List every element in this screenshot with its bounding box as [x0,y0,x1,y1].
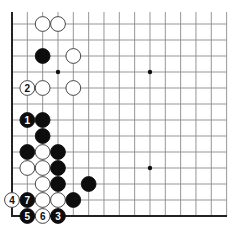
white-stone: 6 [35,209,50,224]
white-stone [35,145,50,160]
stone-disc [35,81,50,96]
black-stone: 3 [51,209,66,224]
move-number: 5 [25,211,31,222]
move-number: 6 [40,211,46,222]
stone-disc [51,193,66,208]
stone-disc [35,145,50,160]
star-point [148,166,152,170]
black-stone [66,193,81,208]
black-stone [20,145,35,160]
black-stone: 1 [20,113,35,128]
white-stone [20,161,35,176]
stone-disc [51,177,66,192]
stone-disc [35,129,50,144]
stone-disc [35,49,50,64]
black-stone [51,177,66,192]
star-point [148,70,152,74]
stone-disc [35,113,50,128]
star-point [56,70,60,74]
stone-disc [66,81,81,96]
stone-disc [51,145,66,160]
black-stone [35,49,50,64]
stone-disc [51,161,66,176]
white-stone [35,177,50,192]
stone-disc [35,193,50,208]
stone-disc [35,17,50,32]
white-stone [35,17,50,32]
stone-disc [35,177,50,192]
move-number: 1 [25,115,31,126]
white-stone [51,193,66,208]
move-number: 3 [55,211,61,222]
black-stone: 5 [20,209,35,224]
move-number: 7 [25,195,31,206]
white-stone [35,161,50,176]
stone-disc [20,161,35,176]
white-stone [66,49,81,64]
stone-disc [66,49,81,64]
white-stone [35,81,50,96]
white-stone [51,17,66,32]
stone-disc [20,145,35,160]
white-stone: 2 [20,81,35,96]
move-number: 2 [25,83,31,94]
stone-disc [66,193,81,208]
black-stone [51,161,66,176]
stone-disc [81,177,96,192]
white-stone [66,81,81,96]
black-stone: 7 [20,193,35,208]
black-stone [81,177,96,192]
black-stone [35,113,50,128]
go-board: 2147563 [0,0,231,232]
black-stone [35,129,50,144]
black-stone [51,145,66,160]
white-stone: 4 [5,193,20,208]
stone-disc [35,161,50,176]
white-stone [35,193,50,208]
stone-disc [51,17,66,32]
move-number: 4 [9,195,15,206]
